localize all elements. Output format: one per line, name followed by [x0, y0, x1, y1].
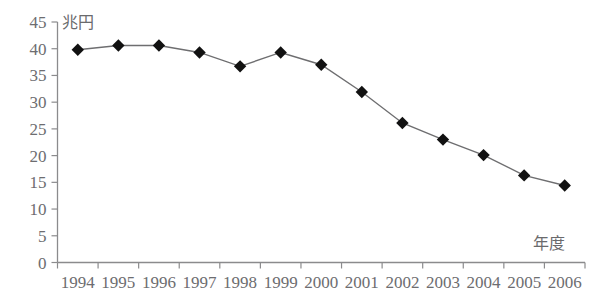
x-tick-label-2002: 2002 [385, 273, 419, 292]
chart-svg: 051015202530354045 199419951996199719981… [0, 0, 591, 300]
x-tick-label-2005: 2005 [507, 273, 541, 292]
x-tick-label-1994: 1994 [61, 273, 96, 292]
y-axis-unit-label: 兆円 [62, 13, 94, 32]
x-tick-label-1996: 1996 [142, 273, 176, 292]
x-tick-label-1997: 1997 [183, 273, 218, 292]
y-tick-label-10: 10 [30, 200, 47, 219]
y-tick-label-20: 20 [30, 147, 47, 166]
x-tick-label-1999: 1999 [264, 273, 298, 292]
y-tick-label-25: 25 [30, 120, 47, 139]
x-tick-label-1998: 1998 [223, 273, 257, 292]
x-axis-unit-label: 年度 [533, 234, 565, 253]
x-tick-label-2003: 2003 [426, 273, 460, 292]
x-tick-label-2001: 2001 [345, 273, 379, 292]
y-tick-label-5: 5 [38, 227, 47, 246]
y-tick-label-35: 35 [30, 66, 47, 85]
chart-background [0, 0, 591, 300]
line-chart: 051015202530354045 199419951996199719981… [0, 0, 591, 300]
x-tick-label-2006: 2006 [548, 273, 582, 292]
y-tick-label-30: 30 [30, 93, 47, 112]
x-tick-label-1995: 1995 [101, 273, 135, 292]
x-tick-label-2004: 2004 [467, 273, 502, 292]
y-tick-label-45: 45 [30, 13, 47, 32]
y-tick-label-15: 15 [30, 173, 47, 192]
y-tick-label-0: 0 [38, 254, 47, 273]
x-tick-label-2000: 2000 [304, 273, 338, 292]
y-tick-label-40: 40 [30, 40, 47, 59]
